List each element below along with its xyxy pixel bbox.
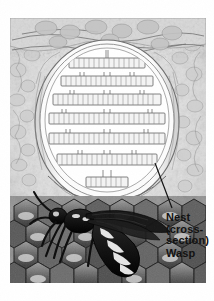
nest-label-line-1: Nest (166, 212, 209, 224)
nest-label: Nest (cross- section) (166, 212, 209, 247)
wasp-nest-figure: Nest (cross- section) Wasp (0, 0, 214, 301)
wasp-label: Wasp (166, 248, 195, 260)
wasp-label-line-1: Wasp (166, 248, 195, 260)
nest-label-line-3: section) (166, 235, 209, 247)
